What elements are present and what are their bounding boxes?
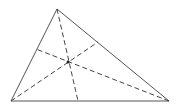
side-ca (57, 9, 169, 101)
cevian-from-a (57, 9, 78, 101)
cevian-from-c (36, 49, 169, 101)
cevian-from-b (11, 42, 98, 101)
side-ab (11, 9, 57, 101)
triangle-diagram (0, 0, 180, 112)
concurrency-point (67, 61, 70, 64)
